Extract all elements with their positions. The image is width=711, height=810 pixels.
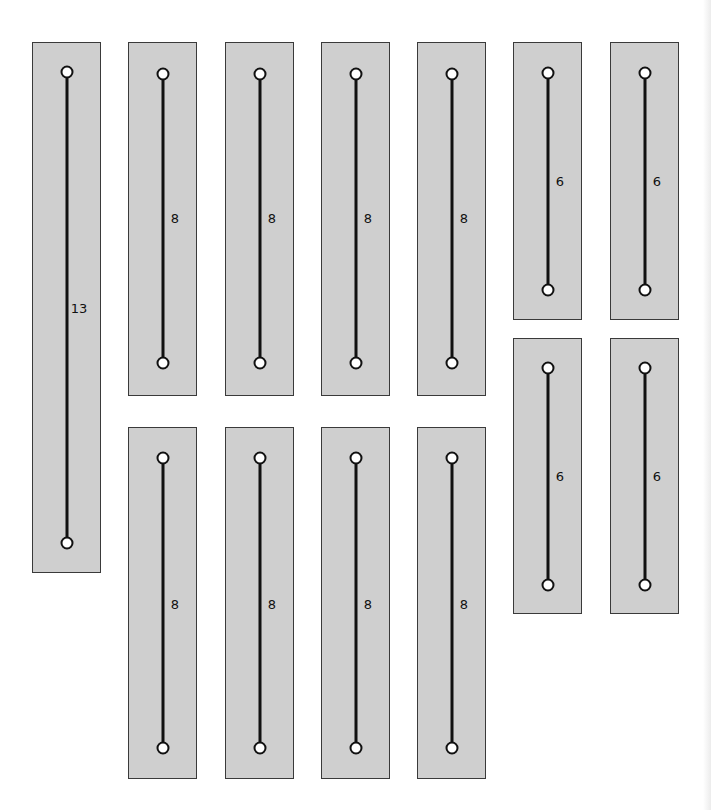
segment-line xyxy=(547,73,550,290)
page-edge-shadow xyxy=(703,0,711,810)
endpoint-circle-icon xyxy=(350,68,363,81)
length-label: 6 xyxy=(653,175,661,188)
endpoint-circle-icon xyxy=(157,452,170,465)
length-label: 8 xyxy=(364,598,372,611)
endpoint-circle-icon xyxy=(639,362,652,375)
segment-line xyxy=(355,74,358,363)
endpoint-circle-icon xyxy=(61,537,74,550)
length-label: 13 xyxy=(71,302,88,315)
length-label: 8 xyxy=(364,212,372,225)
length-label: 8 xyxy=(171,212,179,225)
length-label: 8 xyxy=(460,598,468,611)
endpoint-circle-icon xyxy=(254,68,267,81)
endpoint-circle-icon xyxy=(542,284,555,297)
endpoint-circle-icon xyxy=(542,362,555,375)
endpoint-circle-icon xyxy=(61,66,74,79)
endpoint-circle-icon xyxy=(542,67,555,80)
endpoint-circle-icon xyxy=(639,67,652,80)
endpoint-circle-icon xyxy=(639,579,652,592)
segment-line xyxy=(259,74,262,363)
endpoint-circle-icon xyxy=(446,357,459,370)
endpoint-circle-icon xyxy=(157,68,170,81)
segment-line xyxy=(547,368,550,585)
length-label: 6 xyxy=(556,470,564,483)
endpoint-circle-icon xyxy=(446,452,459,465)
length-label: 6 xyxy=(653,470,661,483)
endpoint-circle-icon xyxy=(639,284,652,297)
length-label: 8 xyxy=(171,598,179,611)
endpoint-circle-icon xyxy=(350,452,363,465)
segment-line xyxy=(66,72,69,543)
segment-line xyxy=(644,368,647,585)
endpoint-circle-icon xyxy=(350,742,363,755)
segment-line xyxy=(259,458,262,748)
endpoint-circle-icon xyxy=(254,357,267,370)
endpoint-circle-icon xyxy=(157,357,170,370)
endpoint-circle-icon xyxy=(350,357,363,370)
endpoint-circle-icon xyxy=(446,68,459,81)
endpoint-circle-icon xyxy=(157,742,170,755)
segment-line xyxy=(644,73,647,290)
length-label: 8 xyxy=(268,598,276,611)
endpoint-circle-icon xyxy=(254,452,267,465)
endpoint-circle-icon xyxy=(446,742,459,755)
endpoint-circle-icon xyxy=(542,579,555,592)
endpoint-circle-icon xyxy=(254,742,267,755)
segment-line xyxy=(451,458,454,748)
segment-line xyxy=(162,458,165,748)
segment-line xyxy=(451,74,454,363)
length-label: 6 xyxy=(556,175,564,188)
length-label: 8 xyxy=(460,212,468,225)
segment-line xyxy=(162,74,165,363)
segment-line xyxy=(355,458,358,748)
length-label: 8 xyxy=(268,212,276,225)
